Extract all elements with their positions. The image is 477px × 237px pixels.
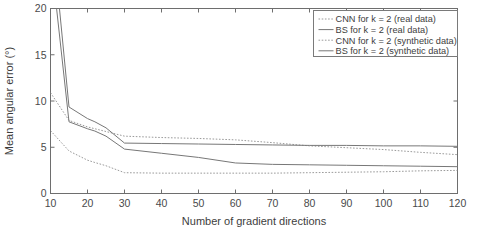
legend-label-1: BS for k = 2 (real data) bbox=[336, 25, 429, 35]
series-line-2 bbox=[51, 131, 458, 174]
series-line-0 bbox=[51, 93, 458, 155]
y-tick-label: 20 bbox=[35, 2, 47, 14]
x-tick-label: 110 bbox=[412, 197, 429, 209]
line-chart: 10203040506070809010011012005101520Numbe… bbox=[0, 0, 477, 237]
y-axis-title: Mean angular error (°) bbox=[3, 47, 15, 155]
x-tick-label: 80 bbox=[304, 197, 316, 209]
x-tick-label: 120 bbox=[449, 197, 467, 209]
x-tick-label: 60 bbox=[230, 197, 242, 209]
legend-label-2: CNN for k = 2 (synthetic data) bbox=[336, 36, 457, 46]
legend[interactable]: CNN for k = 2 (real data)BS for k = 2 (r… bbox=[314, 11, 458, 57]
x-tick-label: 20 bbox=[82, 197, 94, 209]
y-tick-label: 10 bbox=[35, 95, 47, 107]
y-tick-label: 15 bbox=[35, 49, 47, 61]
y-tick-label: 5 bbox=[41, 141, 47, 153]
figure-canvas: 10203040506070809010011012005101520Numbe… bbox=[0, 0, 477, 237]
y-tick-label: 0 bbox=[41, 187, 47, 199]
x-tick-label: 40 bbox=[156, 197, 168, 209]
legend-label-0: CNN for k = 2 (real data) bbox=[336, 14, 436, 24]
x-tick-label: 30 bbox=[119, 197, 131, 209]
x-tick-label: 90 bbox=[341, 197, 353, 209]
legend-label-3: BS for k = 2 (synthetic data) bbox=[336, 46, 450, 56]
x-tick-label: 100 bbox=[375, 197, 393, 209]
x-axis-title: Number of gradient directions bbox=[182, 215, 327, 227]
x-tick-label: 50 bbox=[193, 197, 205, 209]
x-tick-label: 70 bbox=[267, 197, 279, 209]
